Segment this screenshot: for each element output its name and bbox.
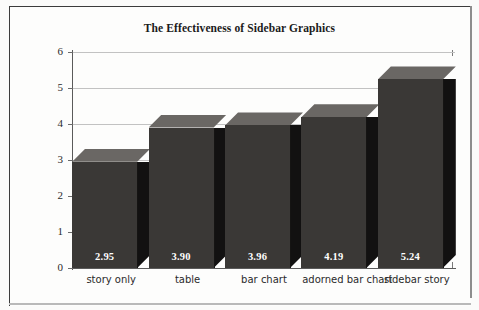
bar-top-face — [149, 115, 227, 128]
bar-front-face — [149, 128, 215, 268]
y-tick-label: 6 — [43, 45, 63, 57]
bar-front-face — [301, 117, 367, 268]
bar-3d: 3.96 — [225, 112, 290, 268]
x-tick-label: sidebar story — [379, 274, 455, 285]
bar-3d: 3.90 — [149, 115, 214, 268]
bar-value-label: 3.96 — [225, 251, 290, 262]
bar-side-face — [443, 79, 456, 268]
bar-3d: 5.24 — [378, 66, 443, 268]
y-tick-mark — [68, 268, 73, 269]
y-tick-mark — [68, 124, 73, 125]
y-tick-label: 3 — [43, 153, 63, 165]
x-tick-label: adorned bar chart — [302, 274, 378, 285]
chart-figure: The Effectiveness of Sidebar Graphics Ac… — [0, 0, 479, 310]
bar-front-face — [378, 79, 444, 268]
x-tick-label: table — [149, 274, 225, 285]
y-tick-label: 2 — [43, 189, 63, 201]
bar-front-face — [225, 125, 291, 268]
bar-top-face — [378, 66, 456, 79]
y-tick-label: 1 — [43, 225, 63, 237]
gridline — [73, 52, 455, 53]
plot-area: 0123456 2.953.903.964.195.24 — [73, 52, 455, 268]
bar-3d: 4.19 — [301, 104, 366, 268]
page-border-bottom — [9, 303, 471, 305]
bar-top-face — [225, 112, 303, 125]
y-tick-label: 4 — [43, 117, 63, 129]
bar-value-label: 5.24 — [378, 251, 443, 262]
x-tick-label: story only — [73, 274, 149, 285]
y-tick-label: 5 — [43, 81, 63, 93]
y-tick-label: 0 — [43, 261, 63, 273]
bar-top-face — [301, 104, 379, 117]
bar-top-face — [72, 149, 150, 162]
x-tick-label: bar chart — [226, 274, 302, 285]
bar-value-label: 4.19 — [301, 251, 366, 262]
bar-3d: 2.95 — [72, 149, 137, 268]
page-border-right — [470, 6, 472, 298]
bar-value-label: 3.90 — [149, 251, 214, 262]
chart-title: The Effectiveness of Sidebar Graphics — [0, 22, 479, 34]
y-tick-mark — [68, 88, 73, 89]
bar-value-label: 2.95 — [72, 251, 137, 262]
y-tick-mark — [68, 52, 73, 53]
